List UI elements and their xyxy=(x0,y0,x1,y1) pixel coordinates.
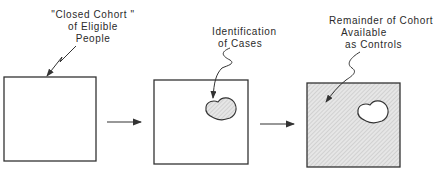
remainder-label-line-1: Remainder of Cohort xyxy=(329,15,433,27)
identification-box xyxy=(154,80,248,164)
closed-cohort-box xyxy=(4,77,96,161)
remainder-label-line-2: Available xyxy=(329,27,433,39)
cases-region xyxy=(206,98,236,120)
remainder-box xyxy=(307,83,400,167)
identification-label-line-1: Identification xyxy=(212,26,277,38)
remainder-label-line-3: as Controls xyxy=(329,39,433,51)
identification-label: Identification of Cases xyxy=(212,26,277,50)
cases-excluded-region xyxy=(358,101,388,123)
closed-cohort-label-line-1: "Closed Cohort " xyxy=(48,9,138,21)
closed-cohort-label: "Closed Cohort " of Eligible People xyxy=(48,9,138,45)
identification-label-line-2: of Cases xyxy=(212,38,277,50)
closed-cohort-label-line-3: People xyxy=(48,33,138,45)
closed-cohort-label-line-2: of Eligible xyxy=(48,21,138,33)
closed-cohort-pointer xyxy=(47,46,76,76)
identification-pointer xyxy=(213,48,232,98)
remainder-label: Remainder of Cohort Available as Control… xyxy=(329,15,433,51)
